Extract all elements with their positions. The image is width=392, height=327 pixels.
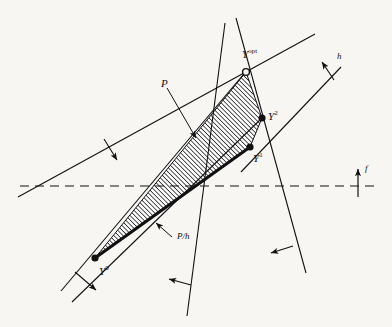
vertex-marker-Y0: [91, 254, 98, 261]
label-vertex-Y2: Y2: [268, 110, 278, 122]
label-p-over-h: P/h: [177, 232, 190, 241]
label-line-h-text: h: [337, 51, 342, 61]
label-objective-f-text: f: [365, 163, 368, 173]
label-line-h: h: [337, 52, 342, 61]
label-polytope-P: P: [161, 78, 168, 89]
vertex-marker-Y2: [258, 114, 265, 121]
label-vertex-Yopt-sup: opt: [248, 47, 257, 55]
label-vertex-Y0: Y0: [99, 265, 109, 277]
label-vertex-Y1-sup: 1: [259, 151, 263, 159]
label-polytope-P-text: P: [161, 77, 168, 89]
figure-root: P P/h Yopt Y0 Y1 Y2 h f: [0, 0, 392, 327]
vertex-marker-Yopt: [243, 69, 250, 76]
label-p-over-h-text: P/h: [177, 231, 190, 241]
vertex-marker-Y1: [246, 143, 253, 150]
label-objective-f: f: [365, 164, 368, 173]
label-vertex-Y2-sup: 2: [274, 109, 278, 117]
label-vertex-Y1: Y1: [253, 152, 263, 164]
diagram-canvas: [0, 0, 392, 327]
label-vertex-Yopt: Yopt: [242, 48, 257, 60]
label-vertex-Y0-sup: 0: [105, 264, 109, 272]
